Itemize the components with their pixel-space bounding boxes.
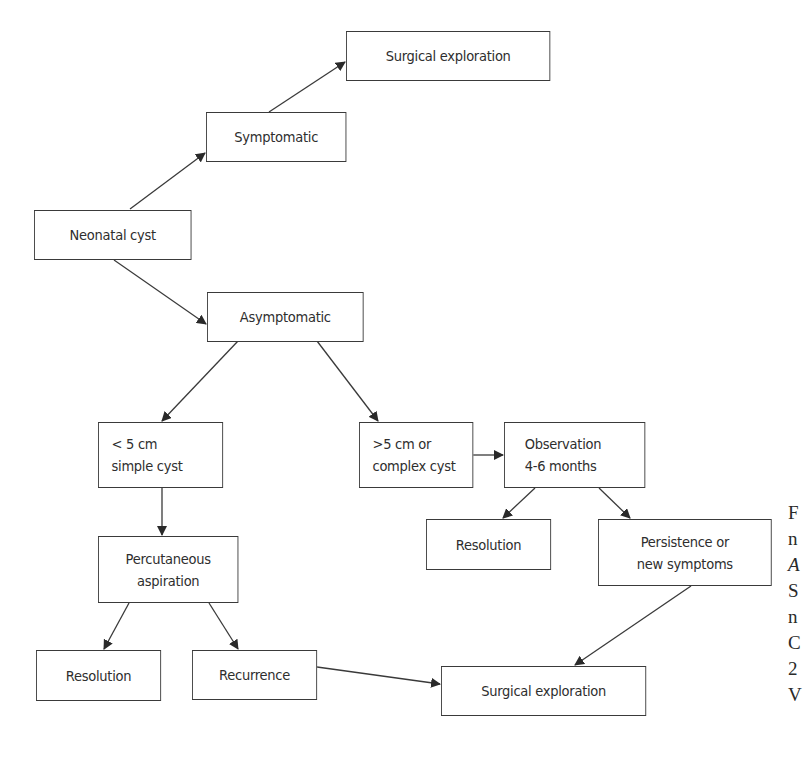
node-label: Resolution: [456, 534, 521, 556]
node-neonatal-cyst: Neonatal cyst: [34, 210, 192, 260]
node-observation: Observation 4-6 months: [504, 422, 645, 488]
node-label: Surgical exploration: [481, 680, 606, 702]
node-percutaneous-aspiration: Percutaneous aspiration: [98, 536, 238, 603]
node-label: Resolution: [66, 665, 131, 687]
node-label: Recurrence: [219, 664, 290, 686]
node-asymptomatic: Asymptomatic: [207, 292, 364, 342]
caption-char: C: [788, 630, 802, 656]
node-label-line-2: 4-6 months: [525, 455, 597, 477]
node-label-line-1: Observation: [525, 433, 602, 455]
node-label-line-2: complex cyst: [373, 455, 456, 477]
node-surgical-exploration-top: Surgical exploration: [346, 31, 550, 81]
node-recurrence: Recurrence: [192, 650, 317, 700]
node-label: Neonatal cyst: [70, 224, 156, 246]
node-label-line-2: new symptoms: [637, 553, 733, 575]
node-persistence-new-symptoms: Persistence or new symptoms: [598, 519, 772, 586]
edge-symptomatic-to-surgical: [269, 62, 345, 112]
node-label: Surgical exploration: [386, 45, 511, 67]
caption-char: A: [788, 552, 802, 578]
caption-char: V: [788, 682, 802, 708]
caption-char: 2: [788, 656, 802, 682]
edge-observation-to-resolution: [503, 488, 535, 518]
node-label: Asymptomatic: [240, 306, 331, 328]
node-surgical-exploration-bottom: Surgical exploration: [441, 666, 646, 716]
edge-asymptomatic-to-small: [162, 341, 238, 421]
edge-percutaneous-to-resolution: [104, 603, 129, 649]
node-resolution-bottom: Resolution: [36, 650, 161, 701]
node-label: Symptomatic: [234, 126, 318, 148]
caption-char: n: [788, 526, 802, 552]
caption-char: n: [788, 604, 802, 630]
caption-char: F: [788, 500, 802, 526]
edge-neonatal-to-asymptomatic: [114, 260, 206, 324]
node-label-line-1: < 5 cm: [112, 433, 158, 455]
node-label-line-1: Persistence or: [641, 531, 729, 553]
node-label-line-2: simple cyst: [112, 455, 183, 477]
edge-percutaneous-to-recurrence: [209, 603, 238, 649]
flowchart-edges: [0, 0, 809, 761]
node-label-line-1: >5 cm or: [373, 433, 432, 455]
edge-recurrence-to-surgical: [317, 667, 440, 684]
edge-neonatal-to-symptomatic: [130, 153, 205, 209]
edge-observation-to-persistence: [599, 488, 630, 518]
flowchart-canvas: Surgical exploration Symptomatic Neonata…: [0, 0, 809, 761]
node-resolution-middle: Resolution: [426, 519, 551, 570]
node-label-line-1: Percutaneous: [126, 548, 211, 570]
node-small-simple-cyst: < 5 cm simple cyst: [98, 422, 223, 488]
figure-caption-fragment: F n A S n C 2 V: [788, 500, 802, 708]
edge-asymptomatic-to-large: [317, 341, 378, 421]
node-large-complex-cyst: >5 cm or complex cyst: [359, 422, 473, 488]
edge-persistence-to-surgical: [575, 586, 691, 665]
node-symptomatic: Symptomatic: [206, 112, 346, 162]
node-label-line-2: aspiration: [137, 570, 199, 592]
caption-char: S: [788, 578, 802, 604]
